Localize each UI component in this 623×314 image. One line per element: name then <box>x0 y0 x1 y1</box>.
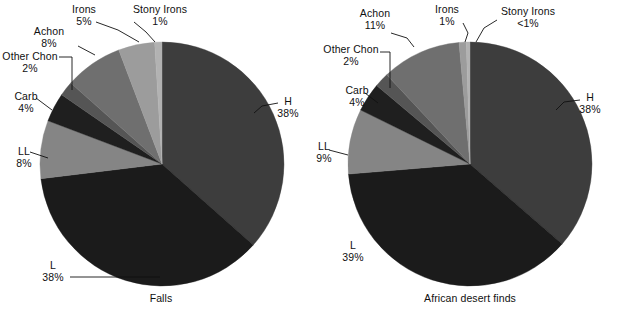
slice-label-carb: Carb 4% <box>4 91 48 115</box>
slice-label-stony-irons-name: Stony Irons <box>133 3 187 15</box>
pie-chart-falls: Irons 5% Stony Irons 1% Achon 8% Other C… <box>0 0 311 314</box>
slice-label-stony-irons: Stony Irons 1% <box>120 4 200 28</box>
slice-label-ll: LL 8% <box>4 146 44 170</box>
slice-label-carb-pct: 4% <box>4 103 48 115</box>
slice-label-l-name: L <box>350 239 356 251</box>
chart-caption-african-desert-finds: African desert finds <box>408 292 532 304</box>
slice-label-h: H 38% <box>574 92 606 116</box>
slice-label-h-pct: 38% <box>272 108 304 120</box>
slice-label-carb-name: Carb <box>345 84 368 96</box>
leader-line-achon <box>391 33 414 47</box>
slice-label-h-name: H <box>586 91 594 103</box>
slice-label-l: L 39% <box>338 240 368 264</box>
slice-label-carb-name: Carb <box>14 90 37 102</box>
slice-label-ll: LL 9% <box>304 141 344 165</box>
slice-label-l: L 38% <box>38 260 68 284</box>
slice-label-achon-name: Achon <box>34 25 64 37</box>
slice-label-other-chon-pct: 2% <box>320 56 382 68</box>
pie-chart-african-desert-finds: Achon 11% Irons 1% Stony Irons <1% Other… <box>312 0 623 314</box>
slice-label-ll-pct: 8% <box>4 158 44 170</box>
slice-label-other-chon-name: Other Chon <box>2 50 57 62</box>
slice-label-carb: Carb 4% <box>335 85 379 109</box>
slice-label-l-pct: 38% <box>38 272 68 284</box>
slice-label-h: H 38% <box>272 96 304 120</box>
slice-label-ll-name: LL <box>18 145 30 157</box>
slice-label-achon-pct: 8% <box>19 38 79 50</box>
slice-label-carb-pct: 4% <box>335 97 379 109</box>
slice-label-h-name: H <box>284 95 292 107</box>
slice-label-achon: Achon 11% <box>345 8 405 32</box>
slice-label-l-name: L <box>50 259 56 271</box>
slice-label-achon: Achon 8% <box>19 26 79 50</box>
slice-label-stony-irons-name: Stony Irons <box>501 5 555 17</box>
chart-caption-falls: Falls <box>126 292 196 304</box>
slice-label-achon-name: Achon <box>360 7 390 19</box>
slice-label-irons: Irons 1% <box>425 4 469 28</box>
slice-label-stony-irons-pct: <1% <box>489 18 567 30</box>
pie-african-slices <box>348 42 592 286</box>
slice-label-l-pct: 39% <box>338 252 368 264</box>
slice-label-stony-irons-pct: 1% <box>120 16 200 28</box>
leader-line-achon <box>78 46 95 55</box>
slice-label-h-pct: 38% <box>574 104 606 116</box>
slice-label-other-chon: Other Chon 2% <box>0 51 61 75</box>
slice-label-other-chon-name: Other Chon <box>323 43 378 55</box>
slice-label-ll-name: LL <box>318 140 330 152</box>
slice-label-irons-name: Irons <box>435 3 459 15</box>
pie-chart-figure: Irons 5% Stony Irons 1% Achon 8% Other C… <box>0 0 623 314</box>
slice-label-achon-pct: 11% <box>345 20 405 32</box>
slice-label-stony-irons: Stony Irons <1% <box>489 6 567 30</box>
slice-label-other-chon-pct: 2% <box>0 63 61 75</box>
slice-label-other-chon: Other Chon 2% <box>320 44 382 68</box>
slice-label-irons-pct: 1% <box>425 16 469 28</box>
slice-label-ll-pct: 9% <box>304 153 344 165</box>
pie-falls-slices <box>40 42 284 286</box>
slice-label-irons-name: Irons <box>72 3 96 15</box>
